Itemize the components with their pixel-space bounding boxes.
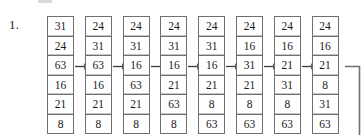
- array-cell: 24: [274, 16, 301, 36]
- continuation-line: [345, 63, 362, 135]
- array-columns-container: 3124631621824316316218243116632182431162…: [0, 0, 362, 135]
- array-cell: 24: [123, 16, 150, 36]
- array-cell: 24: [236, 16, 263, 36]
- array-cell: 31: [274, 75, 301, 95]
- array-cell: 24: [85, 16, 112, 36]
- array-cell: 21: [85, 94, 112, 114]
- array-cell: 21: [47, 94, 74, 114]
- array-cell: 8: [85, 114, 112, 134]
- array-cell: 16: [274, 36, 301, 56]
- array-cell: 16: [123, 55, 150, 75]
- array-cell: 31: [312, 94, 339, 114]
- array-cell: 63: [236, 114, 263, 134]
- array-cell: 63: [198, 114, 225, 134]
- array-cell: 24: [312, 16, 339, 36]
- array-cell: 31: [123, 36, 150, 56]
- array-cell: 63: [312, 114, 339, 134]
- array-cell: 24: [47, 36, 74, 56]
- array-cell: 31: [85, 36, 112, 56]
- array-column: 24316316218: [85, 16, 112, 134]
- array-cell: 31: [47, 16, 74, 36]
- array-cell: 16: [236, 36, 263, 56]
- array-cell: 21: [160, 75, 187, 95]
- array-cell: 24: [198, 16, 225, 36]
- array-column: 24162183163: [312, 16, 339, 134]
- array-cell: 21: [274, 55, 301, 75]
- array-cell: 8: [198, 94, 225, 114]
- array-cell: 21: [123, 94, 150, 114]
- array-cell: 16: [85, 75, 112, 95]
- array-cell: 8: [160, 114, 187, 134]
- array-cell: 24: [160, 16, 187, 36]
- array-cell: 8: [274, 94, 301, 114]
- array-cell: 8: [47, 114, 74, 134]
- array-cell: 21: [198, 75, 225, 95]
- array-cell: 63: [47, 55, 74, 75]
- array-cell: 63: [123, 75, 150, 95]
- array-cell: 16: [312, 36, 339, 56]
- array-cell: 16: [160, 55, 187, 75]
- array-cell: 63: [160, 94, 187, 114]
- array-column: 24162131863: [274, 16, 301, 134]
- array-cell: 31: [198, 36, 225, 56]
- array-column: 24311663218: [123, 16, 150, 134]
- array-column: 24311621638: [160, 16, 187, 134]
- array-cell: 31: [160, 36, 187, 56]
- array-column: 31246316218: [47, 16, 74, 134]
- array-cell: 63: [85, 55, 112, 75]
- array-cell: 8: [236, 94, 263, 114]
- array-cell: 8: [312, 75, 339, 95]
- array-column: 24163121863: [236, 16, 263, 134]
- array-column: 24311621863: [198, 16, 225, 134]
- array-cell: 63: [274, 114, 301, 134]
- array-cell: 16: [198, 55, 225, 75]
- figure-canvas: 1. 3124631621824316316218243116632182431…: [0, 0, 362, 135]
- array-cell: 21: [236, 75, 263, 95]
- array-cell: 16: [47, 75, 74, 95]
- array-cell: 21: [312, 55, 339, 75]
- array-cell: 31: [236, 55, 263, 75]
- array-cell: 8: [123, 114, 150, 134]
